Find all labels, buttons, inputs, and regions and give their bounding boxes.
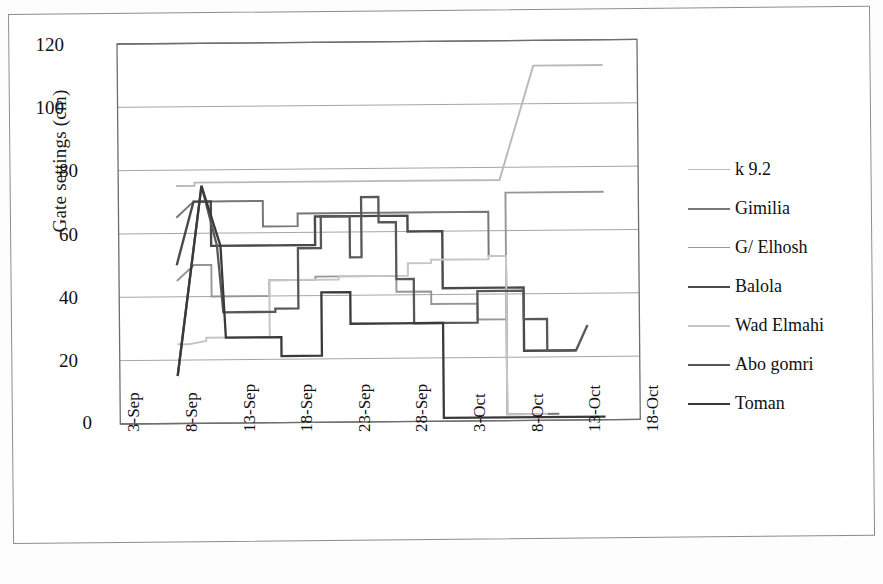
legend-label-abo-gomri: Abo gomri <box>735 354 814 375</box>
grid-line <box>120 356 640 361</box>
x-tick-label: 3-Sep <box>124 392 144 432</box>
line-chart: Gate settings (cm) 120 100 80 60 40 20 0… <box>0 0 883 584</box>
legend-label-k92: k 9.2 <box>735 159 771 180</box>
legend-label-g-elhosh: G/ Elhosh <box>735 237 808 258</box>
x-tick-label: 8-Oct <box>528 393 548 432</box>
legend-swatch-gimilia <box>688 208 730 210</box>
legend-swatch-k92 <box>688 169 730 170</box>
chart-legend: k 9.2 Gimilia G/ Elhosh Balola Wad Elmah… <box>688 150 878 423</box>
grid-line <box>118 103 638 108</box>
x-tick-label: 3-Oct <box>470 393 490 432</box>
legend-item-k92[interactable]: k 9.2 <box>688 150 878 189</box>
legend-item-gimilia[interactable]: Gimilia <box>688 189 878 228</box>
legend-label-balola: Balola <box>735 276 782 297</box>
legend-label-gimilia: Gimilia <box>735 198 790 219</box>
series-line <box>176 182 588 376</box>
legend-swatch-abo-gomri <box>688 364 730 366</box>
data-series-group <box>175 65 606 420</box>
series-line <box>176 192 605 322</box>
x-tick-label: 18-Sep <box>297 384 317 432</box>
x-tick-label: 13-Sep <box>240 384 260 432</box>
x-tick-label: 18-Oct <box>643 385 663 432</box>
scanned-page: Gate settings (cm) 120 100 80 60 40 20 0… <box>0 0 883 584</box>
x-tick-label: 23-Sep <box>355 384 375 432</box>
legend-label-toman: Toman <box>735 393 785 414</box>
grid-line <box>118 166 638 171</box>
grid-line <box>119 293 639 298</box>
x-tick-label: 28-Sep <box>412 384 432 432</box>
legend-swatch-balola <box>688 286 730 288</box>
legend-item-abo-gomri[interactable]: Abo gomri <box>688 345 878 384</box>
x-tick-label: 8-Sep <box>182 392 202 432</box>
legend-item-toman[interactable]: Toman <box>688 384 878 423</box>
legend-swatch-wad-elmahi <box>688 325 730 327</box>
x-tick-label: 13-Oct <box>585 385 605 432</box>
legend-item-g-elhosh[interactable]: G/ Elhosh <box>688 228 878 267</box>
legend-swatch-g-elhosh <box>688 247 730 248</box>
legend-item-balola[interactable]: Balola <box>688 267 878 306</box>
legend-item-wad-elmahi[interactable]: Wad Elmahi <box>688 306 878 345</box>
legend-label-wad-elmahi: Wad Elmahi <box>735 315 824 336</box>
legend-swatch-toman <box>688 403 730 405</box>
